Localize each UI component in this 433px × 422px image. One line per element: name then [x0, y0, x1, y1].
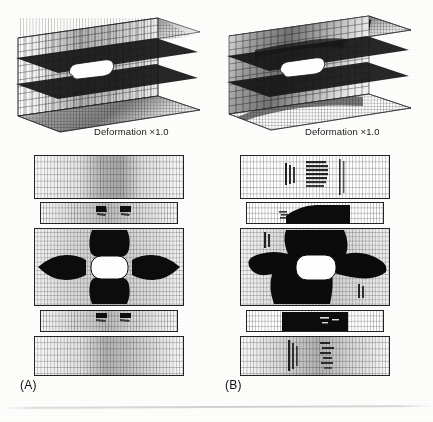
deformation-label-b: Deformation ×1.0 — [305, 126, 380, 137]
strip-a-top-flange-outer — [34, 155, 184, 199]
strip-b-top-flange-outer — [240, 155, 390, 199]
strip-b-web-plate — [240, 228, 390, 306]
deformation-label-a: Deformation ×1.0 — [94, 126, 169, 137]
deformed-beam-mesh-a — [14, 12, 204, 134]
strip-a-bottom-flange-outer — [34, 336, 184, 376]
panel-a: Deformation ×1.0 — [0, 0, 216, 422]
web-opening-b-flat — [296, 255, 336, 280]
strip-b-top-flange-inner — [246, 202, 384, 224]
strip-b-bottom-flange-inner — [246, 310, 384, 332]
strip-b-bottom-flange-outer — [240, 336, 390, 376]
strip-a-top-flange-inner — [40, 202, 178, 224]
panel-label-a: (A) — [20, 378, 37, 392]
figure-canvas: Deformation ×1.0 — [0, 0, 433, 422]
strip-a-bottom-flange-inner — [40, 310, 178, 332]
panel-label-b: (B) — [225, 378, 242, 392]
strip-a-web-plate — [34, 228, 184, 306]
panel-b: Deformation ×1.0 — [205, 0, 433, 422]
web-opening-a-flat — [91, 256, 128, 279]
deformed-beam-mesh-b — [225, 10, 415, 132]
